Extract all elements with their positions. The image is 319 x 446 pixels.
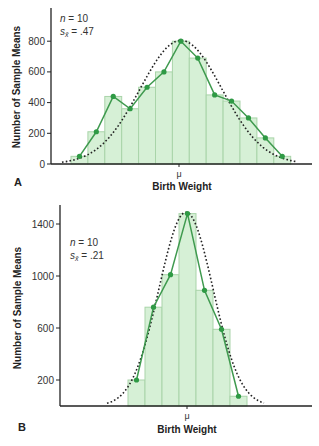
data-point-marker [185, 211, 190, 216]
panel-a-se-annotation: sx̄ = .47 [60, 26, 94, 38]
y-tick-label: 800 [28, 36, 45, 47]
panel-b-se-annotation: sx̄ = .21 [70, 250, 104, 262]
y-tick-label: 600 [28, 66, 45, 77]
data-point-marker [111, 94, 116, 99]
histogram-bar [139, 87, 156, 164]
y-tick-label: 0 [39, 159, 45, 170]
panel-a-mu-label: μ [176, 169, 181, 179]
data-point-marker [219, 327, 224, 332]
histogram-bar [105, 96, 122, 164]
panel-a-x-axis-title: Birth Weight [152, 181, 212, 192]
chart-panel-b: 20060010001400 [32, 205, 312, 409]
histogram-bar [196, 290, 213, 406]
data-point-marker [246, 115, 251, 120]
sampling-distribution-figure: 0200400600800 20060010001400 A n = 10 sx… [0, 0, 319, 446]
panel-a-y-axis-title: Number of Sample Means [11, 25, 22, 148]
panel-b-y-axis-title: Number of Sample Means [12, 246, 23, 369]
data-point-marker [168, 272, 173, 277]
y-tick-label: 400 [28, 97, 45, 108]
histogram-bar [206, 95, 223, 164]
data-point-marker [236, 394, 241, 399]
panel-b-n-annotation: n = 10 [70, 237, 99, 248]
histogram-bar [223, 101, 240, 164]
histogram-bar [88, 132, 105, 164]
histogram-bar [156, 72, 173, 164]
data-point-marker [94, 129, 99, 134]
histogram-bar [145, 307, 162, 406]
y-tick-label: 1000 [32, 271, 55, 282]
panel-b-label: B [18, 421, 26, 433]
y-tick-label: 200 [28, 128, 45, 139]
data-point-marker [128, 106, 133, 111]
data-point-marker [151, 305, 156, 310]
histogram-bar [213, 329, 230, 406]
y-tick-label: 600 [37, 323, 54, 334]
data-point-marker [212, 92, 217, 97]
y-tick-label: 1400 [32, 219, 55, 230]
histogram-bar [189, 58, 206, 164]
data-point-marker [178, 39, 183, 44]
data-point-marker [144, 85, 149, 90]
data-point-marker [77, 154, 82, 159]
data-point-marker [134, 377, 139, 382]
histogram-bar [172, 41, 189, 164]
panel-b-mu-label: μ [184, 411, 189, 421]
panel-b-x-axis-title: Birth Weight [157, 424, 217, 435]
data-point-marker [195, 55, 200, 60]
histogram-bar [257, 138, 274, 164]
y-tick-label: 200 [37, 375, 54, 386]
histogram-bar [162, 275, 179, 406]
data-point-marker [280, 154, 285, 159]
data-point-marker [263, 135, 268, 140]
data-point-marker [161, 69, 166, 74]
data-point-marker [202, 288, 207, 293]
data-point-marker [229, 98, 234, 103]
panel-a-label: A [14, 176, 22, 188]
panel-a-n-annotation: n = 10 [60, 13, 89, 24]
